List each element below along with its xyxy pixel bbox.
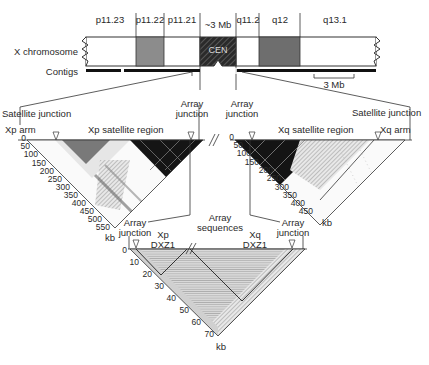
array-heatmap (128, 236, 308, 339)
xp-satellite-junction-marker (53, 132, 59, 140)
array-left-junction-marker (133, 240, 139, 248)
band-q12 (259, 37, 300, 66)
contig-1 (86, 69, 121, 72)
centromere (200, 37, 236, 66)
xq-heatmap (230, 125, 412, 230)
contig-2 (124, 69, 200, 72)
contig-3 (236, 69, 376, 72)
xp-array-junction-marker (188, 132, 194, 140)
xq-array-junction-marker (249, 132, 255, 140)
scale-bar (314, 74, 354, 78)
xq-satellite-junction-marker (375, 132, 381, 140)
chromosome-ideogram (20, 13, 410, 125)
array-right-junction-marker (289, 240, 295, 248)
x-centromere-diagram (0, 0, 429, 365)
band-p11-22 (136, 37, 164, 66)
xp-heatmap (18, 105, 207, 230)
